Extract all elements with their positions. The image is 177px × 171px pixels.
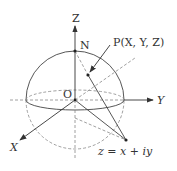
x-axis-label: X bbox=[9, 141, 19, 154]
o-to-z-line bbox=[75, 100, 126, 140]
north-pole-label: N bbox=[80, 39, 90, 52]
n-to-p-dashed bbox=[75, 51, 88, 75]
z-axis-label: Z bbox=[72, 12, 80, 25]
origin-label: O bbox=[63, 88, 72, 101]
origin-point bbox=[74, 99, 77, 102]
point-z bbox=[124, 138, 127, 141]
point-z-label: z = x + iy bbox=[97, 145, 153, 158]
x-axis bbox=[20, 100, 75, 140]
north-pole-point bbox=[73, 49, 76, 52]
projection-dashed bbox=[75, 118, 126, 140]
p-to-z-line bbox=[88, 75, 126, 140]
y-axis-label: Y bbox=[157, 94, 166, 107]
point-p-label: P(X, Y, Z) bbox=[113, 36, 164, 49]
diagonal-dashed bbox=[75, 58, 135, 100]
p-pointer-arrow bbox=[90, 45, 110, 72]
diagram-svg: Z Y X O N P(X, Y, Z) z = x + iy bbox=[0, 0, 177, 171]
stereographic-projection-diagram: Z Y X O N P(X, Y, Z) z = x + iy bbox=[0, 0, 177, 171]
point-p bbox=[86, 73, 89, 76]
